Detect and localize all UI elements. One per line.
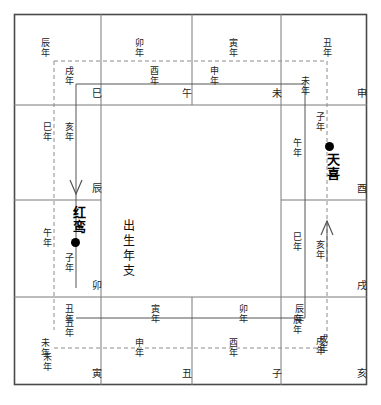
- star-tianxi: 天喜: [323, 153, 342, 181]
- year-label-bottom-dashed-4: 戌年: [318, 334, 327, 354]
- year-label-left-solid-2: 子年: [64, 253, 73, 273]
- year-label-top-dashed-3: 寅年: [228, 38, 237, 58]
- year-label-top-solid-1: 戌年: [64, 66, 73, 86]
- year-label-bottom-solid-4: 辰年: [294, 304, 303, 324]
- palace-label-chen: 辰: [88, 183, 103, 193]
- palace-label-si: 巳: [88, 88, 103, 98]
- year-label-top-dashed-4: 丑年: [322, 38, 331, 58]
- palace-label-shen: 申: [353, 88, 368, 98]
- year-label-top-dashed-1: 辰年: [40, 38, 49, 58]
- star-hongluan: 红鸾: [69, 206, 88, 234]
- year-label-top-solid-2: 酉年: [149, 66, 158, 86]
- year-label-bottom-dashed-3: 酉年: [228, 338, 237, 358]
- palace-label-mao: 卯: [88, 280, 103, 290]
- year-label-bottom-dashed-1: 未年: [40, 338, 49, 358]
- year-label-top-solid-4: 未年: [300, 76, 309, 96]
- palace-label-hai: 亥: [353, 368, 368, 378]
- year-label-right-dashed-2: 亥年: [315, 240, 324, 260]
- year-label-right-dashed-1: 子年: [315, 112, 324, 132]
- palace-label-wei: 未: [268, 88, 283, 98]
- palace-label-zi: 子: [268, 368, 283, 378]
- palace-label-yin: 寅: [88, 368, 103, 378]
- hongluan-marker-dot: [71, 238, 80, 247]
- palace-label-wu: 午: [178, 88, 193, 98]
- year-label-top-dashed-2: 卯年: [134, 38, 143, 58]
- year-label-bottom-solid-3: 卯年: [238, 304, 247, 324]
- palace-label-you: 酉: [353, 183, 368, 193]
- year-label-left-dashed-1: 巳年: [42, 122, 51, 142]
- year-label-bottom-solid-1: 丑年: [64, 304, 73, 324]
- year-label-bottom-solid-2: 寅年: [150, 304, 159, 324]
- year-label-left-dashed-2: 午年: [42, 228, 51, 248]
- year-label-top-solid-3: 申年: [209, 66, 218, 86]
- center-birth-year-branch-label: 出生年支: [119, 219, 136, 279]
- palace-label-xu: 戌: [353, 280, 368, 290]
- year-label-right-solid-1: 午年: [292, 138, 301, 158]
- year-label-right-solid-2: 巳年: [292, 232, 301, 252]
- tianxi-marker-dot: [325, 142, 334, 151]
- year-label-left-solid-1: 亥年: [64, 122, 73, 142]
- palace-label-chou: 丑: [178, 368, 193, 378]
- year-label-bottom-dashed-2: 申年: [134, 338, 143, 358]
